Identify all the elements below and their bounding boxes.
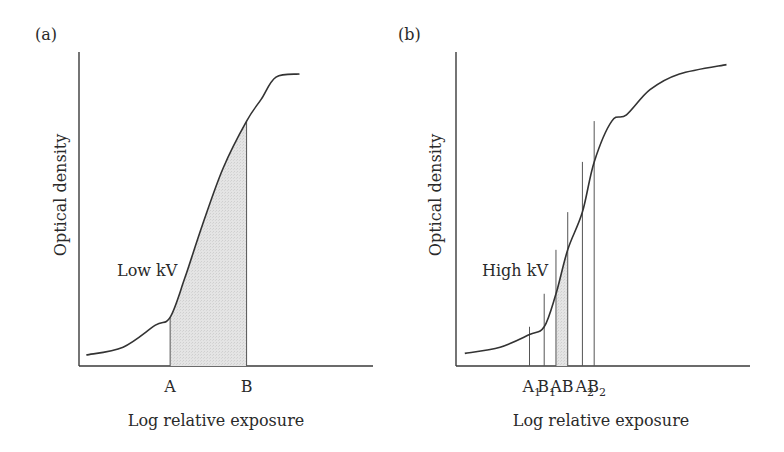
panel-label: (a) (35, 25, 57, 44)
figure: (a) Low kV AB Log relative exposure Opti… (0, 0, 784, 452)
x-axis-title: Log relative exposure (513, 411, 690, 430)
characteristic-curve (465, 65, 727, 354)
shaded-region (170, 121, 246, 366)
panel-a-low-kv: (a) Low kV AB Log relative exposure Opti… (35, 25, 373, 430)
y-axis-title: Optical density (51, 134, 70, 256)
curve-label: High kV (482, 261, 548, 280)
y-axis-title: Optical density (426, 134, 445, 256)
shaded-region-layer (556, 250, 568, 366)
marker-label-A: A (163, 377, 176, 396)
shaded-region-layer (170, 121, 246, 366)
shaded-region (556, 250, 568, 366)
marker-label-B: B (241, 377, 253, 396)
marker-label-B2: B2 (587, 377, 606, 399)
marker-labels: A1B1ABA2B2 (522, 377, 606, 399)
marker-label-B: B (562, 377, 574, 396)
panel-label: (b) (398, 25, 421, 44)
x-axis-title: Log relative exposure (128, 411, 305, 430)
marker-label-A: A (549, 377, 562, 396)
marker-labels: AB (163, 377, 252, 396)
curve-label: Low kV (117, 261, 178, 280)
panel-b-high-kv: (b) High kV A1B1ABA2B2 Log relative expo… (398, 25, 750, 430)
